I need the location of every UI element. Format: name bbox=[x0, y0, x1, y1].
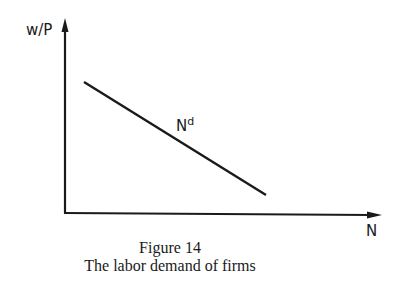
x-axis-label: N bbox=[366, 222, 377, 240]
x-axis-arrowhead bbox=[367, 212, 382, 219]
y-axis-arrowhead bbox=[62, 18, 69, 32]
y-axis-label: w/P bbox=[26, 21, 52, 39]
x-axis bbox=[64, 213, 372, 215]
curve-label: Nd bbox=[176, 115, 194, 135]
figure-number: Figure 14 bbox=[0, 239, 340, 257]
figure-title: The labor demand of firms bbox=[0, 257, 340, 275]
labor-demand-curve bbox=[84, 82, 266, 195]
